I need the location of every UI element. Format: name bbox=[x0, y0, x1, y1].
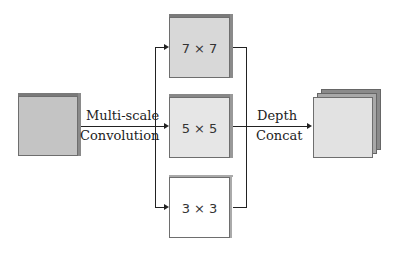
kernel-size-label: 3 × 3 bbox=[170, 200, 229, 215]
branch-5x5-depth-top bbox=[169, 94, 233, 97]
branch-7x7-depth-right bbox=[230, 14, 233, 78]
branch-7x7-block: 7 × 7 bbox=[169, 17, 230, 78]
kernel-size-label: 7 × 7 bbox=[170, 40, 229, 55]
input-to-split-line bbox=[81, 126, 155, 127]
split-vertical-line bbox=[155, 47, 156, 208]
input-block-depth-right bbox=[78, 93, 81, 156]
convolution-label: Convolution bbox=[80, 128, 159, 143]
kernel-size-label: 5 × 5 bbox=[170, 120, 229, 135]
multiscale-conv-diagram: Multi-scale Convolution 7 × 7 5 × 5 3 × … bbox=[0, 0, 401, 255]
input-block-depth-top bbox=[18, 93, 81, 96]
branch-3x3-block: 3 × 3 bbox=[169, 177, 230, 238]
branch-3x3-out-line bbox=[233, 207, 247, 208]
merge-vertical-line bbox=[246, 47, 247, 208]
output-feature-block bbox=[313, 97, 373, 158]
multi-scale-label: Multi-scale bbox=[86, 108, 159, 123]
branch-3x3-depth-top bbox=[169, 175, 233, 177]
input-feature-block bbox=[18, 96, 78, 156]
branch-3x3-depth-right bbox=[230, 175, 232, 238]
merge-to-output-line bbox=[246, 126, 308, 127]
depth-label: Depth bbox=[257, 108, 297, 123]
branch-5x5-block: 5 × 5 bbox=[169, 97, 230, 158]
branch-7x7-depth-top bbox=[169, 14, 233, 17]
branch-5x5-out-line bbox=[233, 126, 247, 127]
concat-label: Concat bbox=[256, 128, 302, 143]
branch-7x7-out-line bbox=[233, 47, 247, 48]
arrowhead-icon bbox=[307, 123, 312, 129]
